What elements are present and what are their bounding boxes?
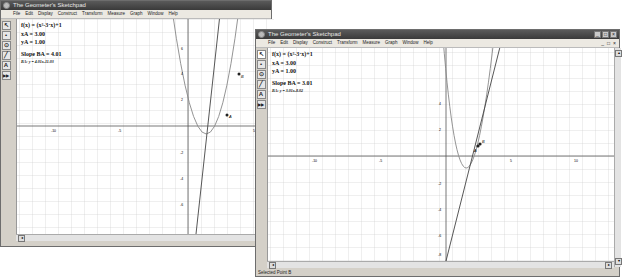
menu-graph[interactable]: Graph: [130, 10, 143, 18]
function-definition[interactable]: f(x) = (x²-3·x)+1: [272, 50, 313, 59]
straightedge-tool-icon[interactable]: ╱: [2, 51, 11, 60]
measure-xa[interactable]: xA = 3.00: [21, 30, 62, 39]
scroll-up-button[interactable]: ▴: [615, 50, 622, 57]
y-tick-label-6: 6: [181, 47, 183, 51]
y-tick-label-neg8: -8: [438, 253, 441, 257]
arrow-tool-icon[interactable]: ↖: [2, 21, 11, 30]
scroll-down-button[interactable]: ▾: [615, 258, 622, 265]
y-tick-label-neg2: -2: [438, 182, 441, 186]
point-tool-icon[interactable]: •: [2, 31, 11, 40]
toolbox: ↖ • ⊙ ╱ A ▶▶: [256, 48, 266, 109]
menu-file[interactable]: File: [13, 10, 20, 18]
text-tool-icon[interactable]: A: [2, 61, 11, 70]
function-definition[interactable]: f(x) = (x²-3·x)+1: [21, 21, 62, 30]
menu-window[interactable]: Window: [147, 10, 163, 18]
measure-slope[interactable]: Slope BA = 3.01: [272, 79, 313, 88]
y-tick-label-4: 4: [439, 102, 441, 106]
menu-display[interactable]: Display: [38, 10, 53, 18]
line-equation[interactable]: BA: y = 4.01x-11.03: [21, 58, 62, 67]
menu-transform[interactable]: Transform: [337, 39, 357, 47]
sketchpad-window-2: The Geometer's Sketchpad _ □ × File Edit…: [255, 29, 620, 277]
measure-ya[interactable]: yA = 1.00: [272, 67, 313, 76]
x-tick-label-5: 5: [510, 159, 512, 163]
close-button[interactable]: ×: [610, 31, 617, 38]
y-tick-label-2: 2: [181, 98, 183, 102]
toolbox: ↖ • ⊙ ╱ A ▶▶: [1, 19, 11, 80]
y-tick-label-4: 4: [181, 72, 183, 76]
y-tick-label-neg2: -2: [180, 151, 183, 155]
y-tick-label-neg6: -6: [438, 234, 441, 238]
scroll-left-button[interactable]: ◂: [269, 262, 276, 269]
minimize-button[interactable]: _: [594, 31, 601, 38]
y-tick-label-neg4: -4: [438, 208, 441, 212]
window-controls: _ □ ×: [594, 31, 617, 38]
x-tick-label-neg10: -10: [51, 129, 56, 133]
scroll-right-button[interactable]: ▸: [605, 262, 612, 269]
line-equation[interactable]: BA: y = 3.01x-8.02: [272, 87, 313, 96]
straightedge-tool-icon[interactable]: ╱: [257, 80, 266, 89]
horizontal-scrollbar[interactable]: ◂: [16, 234, 273, 241]
app-icon: [3, 2, 10, 9]
menu-help[interactable]: Help: [423, 39, 432, 47]
title-bar[interactable]: The Geometer's Sketchpad: [1, 1, 271, 10]
vertical-scrollbar[interactable]: ▴ ▾: [614, 48, 621, 267]
point-label-a: A: [474, 148, 477, 153]
document-controls: _ □ ×: [601, 39, 616, 47]
menu-file[interactable]: File: [268, 39, 275, 47]
measure-ya[interactable]: yA = 1.00: [21, 38, 62, 47]
text-tool-icon[interactable]: A: [257, 90, 266, 99]
measurements-panel: f(x) = (x²-3·x)+1 xA = 3.00 yA = 1.00 Sl…: [21, 21, 62, 67]
coordinate-grid: [268, 48, 615, 261]
menu-graph[interactable]: Graph: [385, 39, 398, 47]
x-tick-label-10: 10: [574, 159, 578, 163]
measure-slope[interactable]: Slope BA = 4.01: [21, 50, 62, 59]
point-tool-icon[interactable]: •: [257, 60, 266, 69]
menu-construct[interactable]: Construct: [313, 39, 332, 47]
menu-display[interactable]: Display: [293, 39, 308, 47]
custom-tool-icon[interactable]: ▶▶: [2, 71, 11, 80]
y-tick-label-2: 2: [439, 128, 441, 132]
menu-help[interactable]: Help: [168, 10, 177, 18]
doc-minimize-button[interactable]: _: [601, 39, 604, 47]
title-bar[interactable]: The Geometer's Sketchpad _ □ ×: [256, 30, 619, 39]
maximize-button[interactable]: □: [602, 31, 609, 38]
x-tick-label-neg10: -10: [312, 159, 317, 163]
sketch-canvas[interactable]: A B -10 -5 5 10 2 4 -2 -4 -6 -8 f(x) = (…: [267, 48, 615, 261]
point-label-b: B: [482, 139, 485, 144]
horizontal-scrollbar[interactable]: ◂ ▸: [267, 261, 614, 268]
y-tick-label-neg4: -4: [180, 177, 183, 181]
menu-edit[interactable]: Edit: [25, 10, 33, 18]
status-bar: Selected Point B: [256, 269, 619, 276]
x-tick-label-neg5: -5: [379, 159, 382, 163]
point-label-a: A: [229, 114, 232, 119]
arrow-tool-icon[interactable]: ↖: [257, 50, 266, 59]
x-tick-label-neg5: -5: [118, 129, 121, 133]
scroll-left-button[interactable]: ◂: [18, 235, 25, 242]
menu-transform[interactable]: Transform: [82, 10, 102, 18]
sketchpad-window-1: The Geometer's Sketchpad File Edit Displ…: [0, 0, 272, 247]
window-title: The Geometer's Sketchpad: [13, 2, 86, 8]
menu-measure[interactable]: Measure: [362, 39, 380, 47]
measure-xa[interactable]: xA = 3.00: [272, 59, 313, 68]
custom-tool-icon[interactable]: ▶▶: [257, 100, 266, 109]
y-tick-label-neg6: -6: [180, 203, 183, 207]
menu-edit[interactable]: Edit: [280, 39, 288, 47]
window-title: The Geometer's Sketchpad: [268, 31, 341, 37]
app-icon: [258, 31, 265, 38]
compass-tool-icon[interactable]: ⊙: [257, 70, 266, 79]
doc-close-button[interactable]: ×: [613, 39, 616, 47]
doc-maximize-button[interactable]: □: [607, 39, 610, 47]
compass-tool-icon[interactable]: ⊙: [2, 41, 11, 50]
menu-window[interactable]: Window: [402, 39, 418, 47]
menu-measure[interactable]: Measure: [107, 10, 125, 18]
status-text: Selected Point B: [258, 270, 291, 275]
sketch-canvas[interactable]: A B -10 -5 5 2 4 6 -2 -4 -6 f(x) = (x²-3…: [16, 19, 274, 234]
menu-bar: File Edit Display Construct Transform Me…: [1, 10, 271, 19]
menu-bar: File Edit Display Construct Transform Me…: [256, 39, 619, 48]
menu-construct[interactable]: Construct: [58, 10, 77, 18]
point-label-b: B: [241, 74, 244, 79]
measurements-panel: f(x) = (x²-3·x)+1 xA = 3.00 yA = 1.00 Sl…: [272, 50, 313, 96]
